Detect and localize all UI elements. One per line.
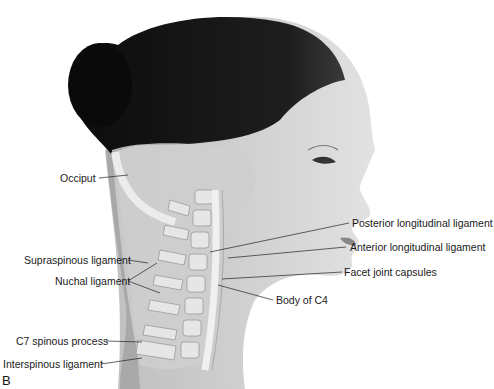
anatomy-illustration [0,0,494,389]
label-nuchal-ligament: Nuchal ligament [55,275,130,287]
panel-letter: B [2,373,11,388]
label-posterior-longitudinal-ligament: Posterior longitudinal ligament [352,217,493,229]
label-anterior-longitudinal-ligament: Anterior longitudinal ligament [350,241,485,253]
label-c7-spinous-process: C7 spinous process [16,335,108,347]
label-facet-joint-capsules: Facet joint capsules [344,266,437,278]
label-interspinous-ligament: Interspinous ligament [3,358,103,370]
label-body-of-c4: Body of C4 [276,294,328,306]
label-occiput: Occiput [60,172,96,184]
label-supraspinous-ligament: Supraspinous ligament [24,254,131,266]
